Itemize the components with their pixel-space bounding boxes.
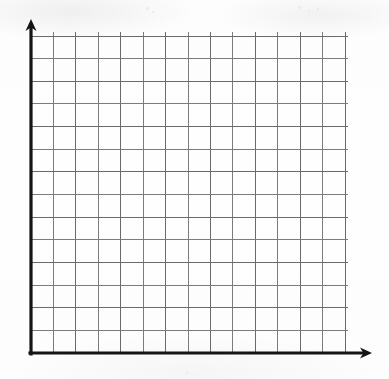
vertical-gridlines [31, 32, 345, 353]
graph-paper-canvas [0, 0, 389, 379]
coordinate-grid [0, 0, 389, 379]
